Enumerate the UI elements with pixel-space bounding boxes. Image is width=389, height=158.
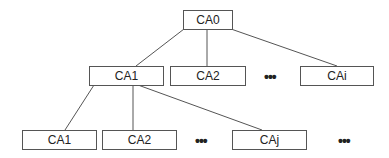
edge-ca0-cai — [231, 29, 337, 66]
node-l2-caj: CAj — [232, 130, 307, 150]
node-l1-ca1: CA1 — [89, 66, 164, 86]
node-l2-ca2: CA2 — [102, 130, 177, 150]
node-l1-ca2: CA2 — [170, 66, 246, 86]
edge-ca0-ca1 — [136, 29, 184, 66]
ellipsis-l2-b: ••• — [338, 136, 350, 146]
node-l1-cai: CAi — [300, 66, 374, 86]
ellipsis-l1: ••• — [264, 72, 276, 82]
node-ca0: CA0 — [183, 10, 233, 30]
edge-ca1-l2ca1 — [65, 85, 94, 130]
edge-ca1-caj — [138, 85, 262, 130]
node-l2-ca1: CA1 — [22, 130, 97, 150]
ellipsis-l2-a: ••• — [195, 136, 207, 146]
